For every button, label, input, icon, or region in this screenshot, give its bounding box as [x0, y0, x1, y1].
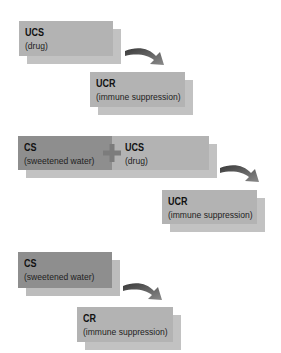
curved-arrow-icon — [123, 46, 167, 68]
ucr-box: UCR (immune suppression) — [162, 190, 257, 224]
ucs-title: UCS — [125, 141, 201, 154]
cs-subtitle: (sweetened water) — [24, 270, 103, 283]
cs-subtitle: (sweetened water) — [24, 154, 103, 167]
cs-box: CS (sweetened water) — [18, 136, 112, 170]
ucr-subtitle: (immune suppression) — [168, 208, 248, 221]
plus-icon — [103, 144, 121, 162]
cr-subtitle: (immune suppression) — [83, 325, 164, 338]
ucs-subtitle: (drug) — [125, 154, 201, 167]
cr-box: CR (immune suppression) — [77, 307, 173, 342]
curved-arrow-icon — [121, 281, 165, 303]
ucr-box: UCR (immune suppression) — [90, 72, 185, 107]
curved-arrow-icon — [218, 163, 262, 185]
cs-title: CS — [24, 257, 103, 270]
ucs-box: UCS (drug) — [19, 21, 113, 56]
ucr-title: UCR — [96, 77, 176, 90]
ucs-subtitle: (drug) — [25, 39, 104, 52]
cs-title: CS — [24, 141, 103, 154]
cs-box: CS (sweetened water) — [18, 252, 112, 288]
ucs-title: UCS — [25, 26, 104, 39]
ucs-box: UCS (drug) — [112, 136, 209, 170]
cr-title: CR — [83, 312, 164, 325]
ucr-subtitle: (immune suppression) — [96, 90, 176, 103]
ucr-title: UCR — [168, 195, 248, 208]
